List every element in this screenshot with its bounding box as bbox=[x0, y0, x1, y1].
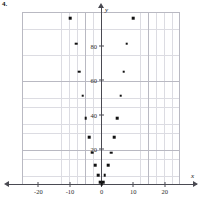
data-point bbox=[75, 43, 78, 46]
x-axis-arrow-right-icon bbox=[193, 181, 198, 187]
data-point bbox=[102, 181, 105, 184]
y-tick-label: 40 bbox=[91, 111, 98, 118]
data-point bbox=[103, 174, 106, 177]
y-tick-mark bbox=[99, 45, 104, 46]
data-point bbox=[78, 70, 81, 73]
data-point bbox=[126, 43, 129, 46]
data-point bbox=[85, 117, 88, 120]
x-axis-arrow-left-icon bbox=[4, 181, 9, 187]
x-tick-mark bbox=[70, 182, 71, 187]
data-point bbox=[110, 152, 113, 155]
x-tick-label: 0 bbox=[100, 188, 103, 195]
problem-number: 4. bbox=[2, 1, 7, 8]
x-axis-label: x bbox=[191, 172, 194, 180]
x-tick-mark bbox=[38, 182, 39, 187]
x-tick-mark bbox=[164, 182, 165, 187]
data-point bbox=[81, 94, 84, 97]
x-tick-label: -20 bbox=[34, 188, 43, 195]
y-axis-arrow-icon bbox=[98, 3, 104, 8]
y-tick-mark bbox=[99, 80, 104, 81]
data-point bbox=[122, 70, 125, 73]
data-point bbox=[113, 136, 116, 139]
data-point bbox=[94, 164, 97, 167]
y-tick-label: 80 bbox=[91, 42, 98, 49]
x-tick-label: -10 bbox=[66, 188, 75, 195]
scatter-plot-figure: 4. y x 20406080 -20-1001020 bbox=[0, 0, 202, 210]
data-point bbox=[97, 174, 100, 177]
y-axis-label: y bbox=[105, 6, 108, 14]
x-tick-label: 20 bbox=[162, 188, 169, 195]
y-axis bbox=[101, 8, 102, 187]
data-point bbox=[91, 152, 94, 155]
data-point bbox=[69, 17, 72, 20]
data-point bbox=[88, 136, 91, 139]
data-point bbox=[107, 164, 110, 167]
x-tick-mark bbox=[133, 182, 134, 187]
data-point bbox=[132, 17, 135, 20]
y-tick-label: 60 bbox=[91, 77, 98, 84]
y-tick-mark bbox=[99, 149, 104, 150]
y-tick-mark bbox=[99, 114, 104, 115]
x-tick-label: 10 bbox=[130, 188, 137, 195]
data-point bbox=[119, 94, 122, 97]
data-point bbox=[116, 117, 119, 120]
